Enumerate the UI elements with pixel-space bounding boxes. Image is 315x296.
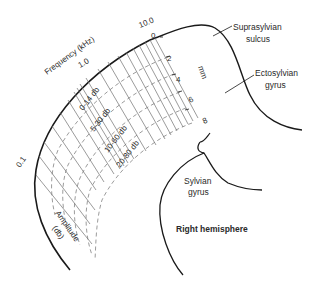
frequency-tick-10: 10.0 (137, 15, 155, 29)
tonotopic-map-diagram: Frequency (kHz) 10.0 1.0 0.1 0 2 4 6 8 m… (0, 0, 315, 296)
diagram-svg: Frequency (kHz) 10.0 1.0 0.1 0 2 4 6 8 m… (0, 0, 315, 296)
mm-tick-0: 0 (151, 31, 156, 40)
amplitude-band-5-30: 5-30 db (88, 106, 112, 133)
suprasylvian-label-line2: sulcus (246, 34, 270, 44)
ectosylvian-small-curve (200, 133, 210, 142)
mm-tick-4: 4 (176, 75, 181, 84)
mm-tick-6: 6 (187, 95, 195, 105)
frequency-tick-1: 1.0 (77, 56, 92, 70)
ectosylvian-label-line2: gyrus (265, 80, 286, 90)
suprasylvian-label-line1: Suprasylvian (233, 22, 282, 32)
amplitude-band-20-80: 20-80 db (114, 138, 141, 169)
hemisphere-label: Right hemisphere (176, 224, 248, 234)
sylvian-label-line2: gyrus (188, 187, 209, 197)
mm-tick-8: 8 (201, 116, 209, 126)
frequency-tick-0-1: 0.1 (14, 154, 28, 169)
frequency-axis-title: Frequency (kHz) (43, 34, 96, 76)
mm-axis-ticks (160, 37, 189, 110)
ectosylvian-leader (225, 75, 254, 93)
mm-unit-label: mm (196, 65, 209, 81)
ectosylvian-label-line1: Ectosylvian (255, 68, 298, 78)
sylvian-label-line1: Sylvian (184, 176, 212, 186)
sylvian-gyrus-outline (160, 153, 204, 275)
mm-tick-2: 2 (167, 54, 172, 63)
